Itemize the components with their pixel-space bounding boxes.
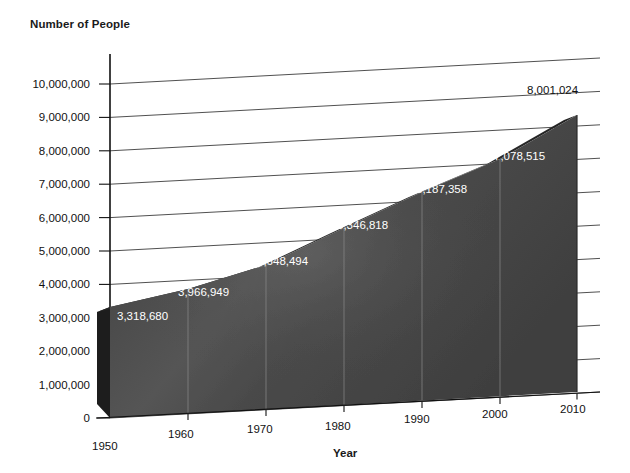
y-axis-title: Number of People [30, 18, 130, 30]
x-axis-title: Year [333, 447, 357, 459]
data-value-label: 4,648,494 [257, 255, 308, 267]
y-tick-label: 5,000,000 [18, 245, 90, 257]
data-value-label: 5,346,818 [337, 219, 388, 231]
y-tick-label: 8,000,000 [18, 145, 90, 157]
chart-canvas [0, 0, 630, 473]
x-tick-label: 1960 [168, 428, 194, 440]
y-tick-label: 10,000,000 [18, 78, 90, 90]
y-tick-label: 3,000,000 [18, 312, 90, 324]
x-tick-label: 1970 [247, 423, 273, 435]
data-value-label: 7,078,515 [494, 150, 545, 162]
x-tick-label: 1990 [404, 413, 430, 425]
y-tick-label: 1,000,000 [18, 379, 90, 391]
y-tick-label: 4,000,000 [18, 278, 90, 290]
data-value-label: 3,318,680 [117, 310, 168, 322]
y-tick-label: 0 [18, 412, 90, 424]
area-chart: Number of People Year 0 1,000,000 2,000,… [0, 0, 630, 473]
data-value-label: 6,187,358 [416, 183, 467, 195]
x-tick-label: 2010 [560, 403, 586, 415]
x-tick-label: 2000 [482, 408, 508, 420]
data-value-label: 8,001,024 [527, 84, 578, 96]
y-tick-label: 2,000,000 [18, 345, 90, 357]
area-left-face [97, 307, 110, 418]
y-tick-label: 7,000,000 [18, 178, 90, 190]
y-tick-label: 6,000,000 [18, 212, 90, 224]
x-tick-label: 1980 [325, 420, 351, 432]
x-tick-label: 1950 [92, 440, 118, 452]
data-value-label: 3,966,949 [178, 286, 229, 298]
y-tick-label: 9,000,000 [18, 111, 90, 123]
